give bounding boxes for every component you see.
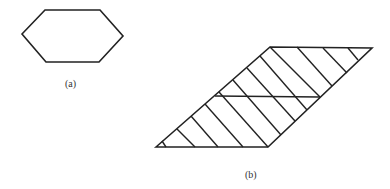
diagram-canvas [0,0,390,189]
hatch-line [177,129,195,147]
hatched-parallelogram [156,47,372,147]
hatch-line [323,48,347,73]
hatch-line [205,104,243,147]
hatch-line [247,68,295,121]
hatch-line [233,80,281,135]
hatch-line [162,141,166,147]
hatch-line [348,48,358,60]
hatch-line [270,47,320,97]
hexagon-shape [22,10,123,62]
hatch-line [260,56,307,110]
parallelogram-divider [215,96,320,97]
figure-label-a: (a) [65,78,76,89]
figure-label-b: (b) [245,169,257,180]
hatch-line [191,116,218,147]
hatch-line [219,92,268,147]
